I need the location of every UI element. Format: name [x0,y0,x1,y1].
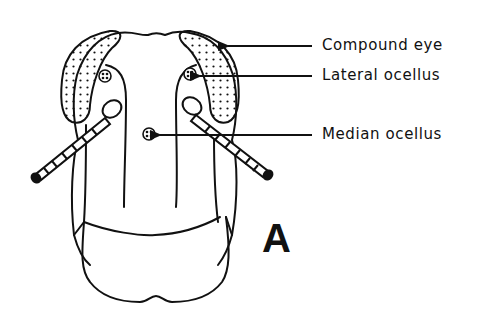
left-frontal-ridge [106,65,126,207]
panel-letter: A [262,218,291,258]
labrum-outline [84,217,220,235]
median-ocellus [143,128,155,140]
right-inner-margin [214,135,218,222]
left-lateral-ocellus [99,70,111,82]
label-median-ocellus: Median ocellus [322,127,442,142]
lower-face-outline [82,217,228,302]
insect-head-diagram: Compound eye Lateral ocellus Median ocel… [0,0,502,335]
label-lateral-ocellus: Lateral ocellus [322,68,440,83]
right-lateral-ocellus [184,68,196,80]
label-compound-eye: Compound eye [322,38,443,53]
